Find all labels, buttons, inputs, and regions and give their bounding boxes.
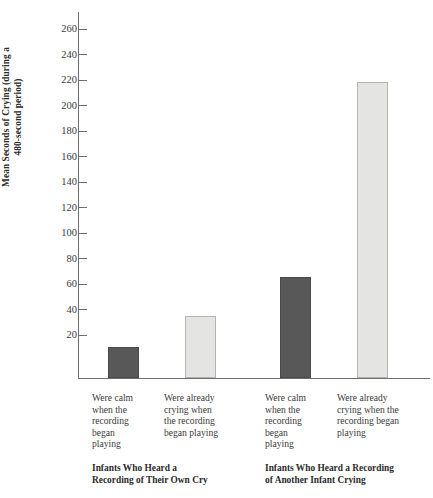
bar-group-1-calm [108,347,139,378]
group-caption-own-cry-line-2: Recording of Their Own Cry [92,474,242,486]
y-tick-20: 20 [40,329,90,341]
category-label-3-line-2: when the [265,404,300,415]
y-tick-mark-200 [79,105,87,106]
y-tick-mark-240 [79,54,87,55]
group-caption-own-cry: Infants Who Heard a Recording of Their O… [92,462,242,487]
y-tick-80: 80 [40,253,90,265]
category-label-4-line-4: playing [337,427,366,438]
category-label-3-line-3: recording [265,415,302,426]
y-tick-mark-60 [79,284,87,285]
group-caption-another-infant-line-2: of Another Infant Crying [265,474,433,486]
bar-group-2-crying [357,82,388,378]
y-tick-120: 120 [40,202,90,214]
category-label-3: Were calm when the recording began playi… [265,392,331,450]
y-tick-label-100: 100 [43,227,77,239]
y-tick-180: 180 [40,125,90,137]
y-tick-240: 240 [40,49,90,61]
y-tick-60: 60 [40,278,90,290]
y-tick-mark-120 [79,207,87,208]
y-tick-label-20: 20 [43,329,77,341]
y-tick-label-220: 220 [43,74,77,86]
bar-chart-plot-area: 260 240 220 200 180 160 140 120 100 80 6… [0,0,433,390]
y-tick-mark-180 [79,131,87,132]
y-tick-label-40: 40 [43,304,77,316]
category-label-1-line-3: recording [92,415,129,426]
y-tick-mark-160 [79,156,87,157]
category-label-4: Were already crying when the recording b… [337,392,429,438]
y-tick-mark-260 [79,29,87,30]
category-label-2-line-3: the recording [164,415,215,426]
category-label-2-line-1: Were already [164,392,215,403]
category-label-3-line-5: playing [265,438,294,449]
y-tick-mark-100 [79,233,87,234]
category-label-2-line-2: crying when [164,404,212,415]
y-tick-mark-80 [79,258,87,259]
y-tick-mark-140 [79,182,87,183]
bar-group-2-calm [280,277,311,378]
y-tick-label-60: 60 [43,278,77,290]
y-tick-label-160: 160 [43,151,77,163]
y-tick-140: 140 [40,176,90,188]
y-tick-label-200: 200 [43,100,77,112]
y-tick-mark-20 [79,335,87,336]
y-tick-260: 260 [40,23,90,35]
category-label-3-line-1: Were calm [265,392,306,403]
group-caption-own-cry-line-1: Infants Who Heard a [92,462,242,474]
y-tick-label-180: 180 [43,125,77,137]
y-tick-200: 200 [40,100,90,112]
y-tick-label-120: 120 [43,202,77,214]
y-tick-label-240: 240 [43,49,77,61]
category-label-1-line-5: playing [92,438,121,449]
y-tick-label-140: 140 [43,176,77,188]
category-label-2: Were already crying when the recording b… [164,392,242,438]
y-axis-line [78,12,79,379]
category-label-1: Were calm when the recording began playi… [92,392,158,450]
y-tick-220: 220 [40,74,90,86]
y-tick-160: 160 [40,151,90,163]
category-label-3-line-4: began [265,427,288,438]
category-label-2-line-4: began playing [164,427,218,438]
x-axis-line [78,378,430,379]
y-tick-label-80: 80 [43,253,77,265]
bar-group-1-crying [185,316,216,379]
y-tick-label-260: 260 [43,23,77,35]
category-label-4-line-1: Were already [337,392,388,403]
category-label-1-line-1: Were calm [92,392,133,403]
category-label-1-line-2: when the [92,404,127,415]
y-tick-100: 100 [40,227,90,239]
category-label-4-line-3: recording began [337,415,399,426]
category-label-4-line-2: crying when the [337,404,399,415]
y-tick-40: 40 [40,304,90,316]
category-label-1-line-4: began [92,427,115,438]
group-caption-another-infant: Infants Who Heard a Recording of Another… [265,462,433,487]
group-caption-another-infant-line-1: Infants Who Heard a Recording [265,462,433,474]
y-tick-mark-40 [79,309,87,310]
y-tick-mark-220 [79,80,87,81]
